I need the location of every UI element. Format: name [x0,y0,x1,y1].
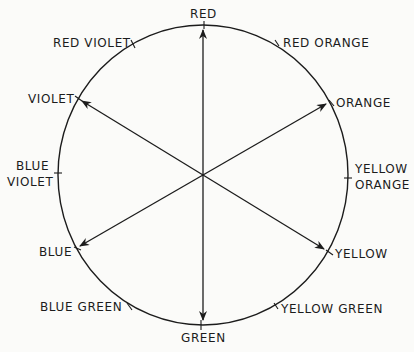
label-blue-green: BLUE GREEN [40,300,122,314]
label-yellow-orange-line2: ORANGE [355,178,410,192]
label-blue-violet-line2: VIOLET [7,175,53,189]
label-red-violet: RED VIOLET [53,36,131,50]
label-blue: BLUE [39,245,72,259]
label-red-orange: RED ORANGE [283,36,369,50]
label-violet: VIOLET [28,92,74,106]
label-yellow-orange-line1: YELLOW [355,162,408,176]
label-yellow: YELLOW [335,247,388,261]
complement-arrows [80,30,326,320]
label-red: RED [190,7,217,21]
label-green: GREEN [181,331,226,345]
color-wheel-diagram: RED RED ORANGE ORANGE YELLOW ORANGE YELL… [0,0,414,352]
label-blue-violet-line1: BLUE [16,159,49,173]
label-orange: ORANGE [336,96,391,110]
label-yellow-green: YELLOW GREEN [281,302,383,316]
